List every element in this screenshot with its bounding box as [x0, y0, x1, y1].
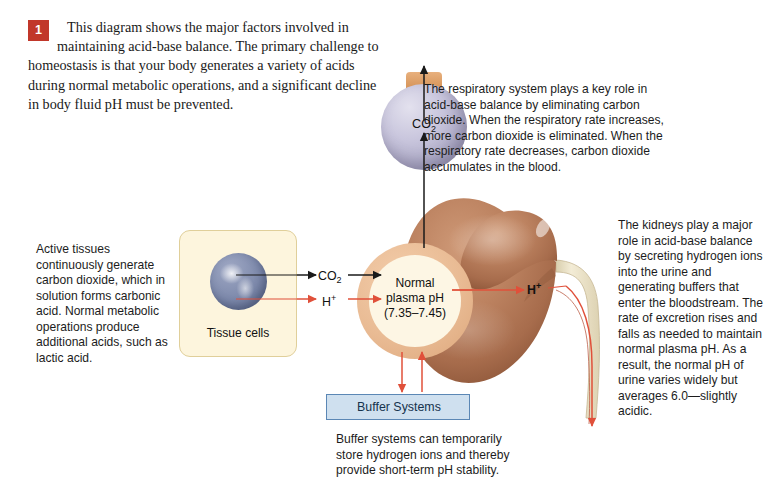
label-co2-transport: CO2 [318, 269, 342, 285]
figure-canvas: 1 This diagram shows the major factors i… [0, 0, 778, 494]
note-kidneys: The kidneys play a major role in acid-ba… [618, 218, 768, 420]
label-hydrogen-transport-text: H [322, 295, 331, 309]
plasma-ph-label: Normal plasma pH (7.35–7.45) [357, 276, 473, 322]
figure-intro: 1 This diagram shows the major factors i… [28, 18, 388, 114]
tissue-cells-box: Tissue cells [179, 230, 297, 357]
buffer-systems-label: Buffer Systems [327, 395, 471, 419]
label-hydrogen-kidney-superscript: + [536, 281, 541, 291]
tissue-cell-illustration [210, 253, 267, 310]
label-hydrogen-transport: H+ [322, 293, 336, 309]
label-co2-transport-subscript: 2 [337, 275, 342, 285]
label-hydrogen-transport-superscript: + [331, 293, 336, 303]
tissue-cells-label: Tissue cells [180, 326, 296, 340]
arrow-h-into-kidney [548, 286, 566, 288]
buffer-systems-box: Buffer Systems [326, 394, 470, 420]
note-respiratory-system: The respiratory system plays a key role … [424, 82, 664, 175]
ureter-shape [556, 260, 599, 418]
renal-vessel-line [556, 290, 590, 424]
note-active-tissues: Active tissues continuously generate car… [36, 242, 176, 366]
note-buffer-systems: Buffer systems can temporarily store hyd… [336, 432, 511, 479]
label-co2-transport-text: CO [318, 269, 337, 283]
step-number-badge: 1 [28, 20, 49, 41]
label-hydrogen-kidney: H+ [527, 281, 541, 297]
arrow-urine-excretion [566, 286, 592, 426]
label-hydrogen-kidney-text: H [527, 283, 536, 297]
figure-intro-text: This diagram shows the major factors inv… [28, 18, 388, 114]
